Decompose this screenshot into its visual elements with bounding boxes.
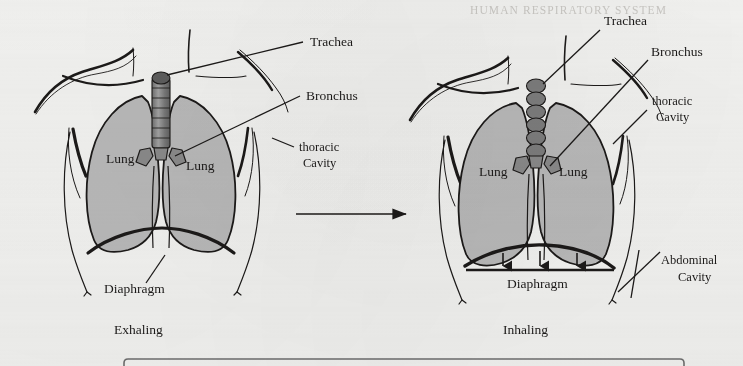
panel-inhaling: Trachea Bronchus thoracic Cavity Abdomin… bbox=[410, 13, 718, 337]
label-diaphragm-inhaling: Diaphragm bbox=[507, 276, 568, 291]
label-diaphragm-exhaling: Diaphragm bbox=[104, 281, 165, 296]
torso-outline-inhaling bbox=[410, 36, 663, 304]
label-abdominal-cavity-line2-inhaling: Cavity bbox=[678, 270, 712, 284]
trachea-inhaling bbox=[527, 79, 546, 158]
label-lung-right-exhaling: Lung bbox=[186, 158, 215, 173]
bronchi-inhaling bbox=[513, 156, 561, 174]
label-lung-right-inhaling: Lung bbox=[559, 164, 588, 179]
respiration-figure: HUMAN RESPIRATORY SYSTEM bbox=[0, 0, 743, 366]
label-thoracic-cavity-line2-exhaling: Cavity bbox=[303, 156, 337, 170]
label-bronchus-inhaling: Bronchus bbox=[651, 44, 703, 59]
label-lung-left-exhaling: Lung bbox=[106, 151, 135, 166]
label-thoracic-cavity-line2-inhaling: Cavity bbox=[656, 110, 690, 124]
label-trachea-inhaling: Trachea bbox=[604, 13, 647, 28]
label-bronchus-exhaling: Bronchus bbox=[306, 88, 358, 103]
lung-right-inhaling bbox=[538, 103, 614, 266]
trachea-exhaling bbox=[152, 72, 170, 148]
bronchi-exhaling bbox=[136, 148, 186, 166]
panel-exhaling: Trachea Bronchus thoracic Cavity Lung Lu… bbox=[35, 30, 358, 337]
caption-exhaling: Exhaling bbox=[114, 322, 163, 337]
lung-left-inhaling bbox=[459, 103, 535, 266]
torso-outline-exhaling bbox=[35, 30, 288, 296]
label-lung-left-inhaling: Lung bbox=[479, 164, 508, 179]
label-trachea-exhaling: Trachea bbox=[310, 34, 353, 49]
label-abdominal-cavity-line1-inhaling: Abdominal bbox=[661, 253, 718, 267]
label-thoracic-cavity-line1-inhaling: thoracic bbox=[652, 94, 693, 108]
label-thoracic-cavity-line1-exhaling: thoracic bbox=[299, 140, 340, 154]
caption-box bbox=[124, 359, 684, 366]
figure-page: HUMAN RESPIRATORY SYSTEM bbox=[0, 0, 743, 366]
caption-inhaling: Inhaling bbox=[503, 322, 548, 337]
